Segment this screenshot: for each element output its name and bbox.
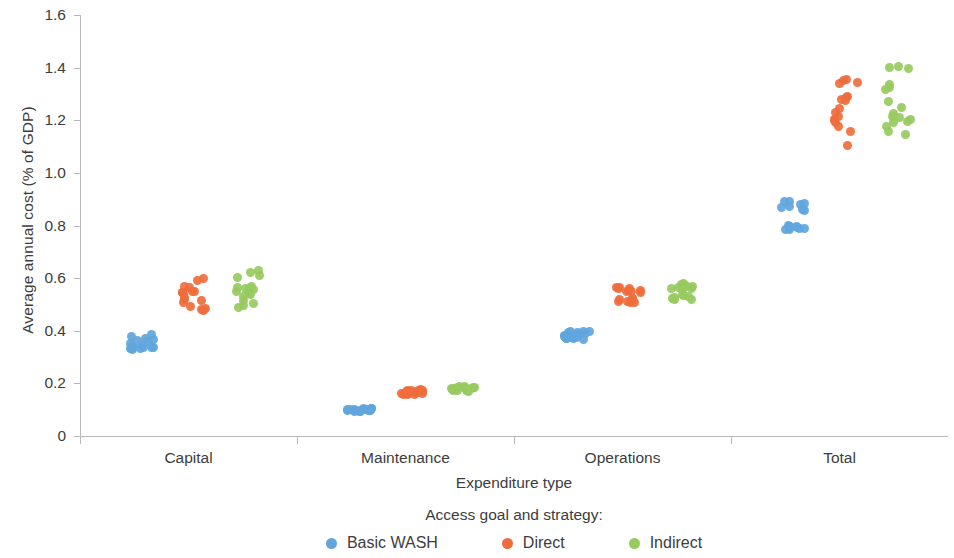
legend-item-label: Basic WASH bbox=[347, 534, 438, 552]
data-point bbox=[628, 294, 637, 303]
y-tick-label: 0.8 bbox=[8, 218, 66, 234]
x-tick-mark bbox=[514, 437, 515, 444]
data-point bbox=[246, 268, 255, 277]
y-tick-label: 0.6 bbox=[8, 270, 66, 286]
data-point bbox=[199, 306, 208, 315]
data-point bbox=[687, 295, 696, 304]
data-point bbox=[186, 302, 195, 311]
data-point bbox=[785, 225, 794, 234]
data-point bbox=[843, 141, 852, 150]
y-tick-label: 1.2 bbox=[8, 112, 66, 128]
data-point bbox=[894, 62, 903, 71]
data-point bbox=[234, 303, 243, 312]
y-tick-label: 0 bbox=[8, 428, 66, 444]
data-point bbox=[233, 273, 242, 282]
data-point bbox=[901, 130, 910, 139]
data-point bbox=[885, 63, 894, 72]
data-point bbox=[670, 293, 679, 302]
data-point bbox=[846, 127, 855, 136]
legend-item-direct[interactable]: Direct bbox=[502, 534, 565, 552]
y-tick-label: 1.0 bbox=[8, 165, 66, 181]
data-point bbox=[835, 79, 844, 88]
x-tick-mark bbox=[80, 437, 81, 444]
y-tick-label: 1.6 bbox=[8, 7, 66, 23]
data-point bbox=[834, 122, 843, 131]
legend-swatch-icon bbox=[326, 538, 337, 549]
scatter-chart-figure: Average annual cost (% of GDP) 00.20.40.… bbox=[0, 0, 954, 558]
data-point bbox=[800, 206, 809, 215]
data-point bbox=[190, 287, 199, 296]
data-point bbox=[682, 282, 691, 291]
data-point bbox=[785, 202, 794, 211]
x-axis-title: Expenditure type bbox=[80, 474, 948, 492]
x-tick-mark bbox=[297, 437, 298, 444]
data-point bbox=[853, 78, 862, 87]
data-point bbox=[255, 271, 264, 280]
data-point bbox=[414, 386, 423, 395]
plot-area bbox=[80, 15, 948, 436]
y-tick-label: 0.4 bbox=[8, 323, 66, 339]
data-point bbox=[881, 85, 890, 94]
data-point bbox=[136, 344, 145, 353]
x-tick-label-operations: Operations bbox=[513, 449, 733, 467]
data-point bbox=[249, 299, 258, 308]
data-point bbox=[636, 286, 645, 295]
x-tick-label-capital: Capital bbox=[79, 449, 299, 467]
legend-title: Access goal and strategy: bbox=[80, 506, 948, 524]
data-point bbox=[614, 297, 623, 306]
x-tick-label-maintenance: Maintenance bbox=[296, 449, 516, 467]
data-point bbox=[841, 96, 850, 105]
x-tick-mark bbox=[731, 437, 732, 444]
legend-swatch-icon bbox=[502, 538, 513, 549]
legend-item-indirect[interactable]: Indirect bbox=[629, 534, 702, 552]
data-point bbox=[470, 383, 479, 392]
x-tick-label-total: Total bbox=[730, 449, 950, 467]
legend-item-label: Indirect bbox=[650, 534, 702, 552]
y-tick-label: 1.4 bbox=[8, 60, 66, 76]
data-point bbox=[800, 224, 809, 233]
data-point bbox=[903, 117, 912, 126]
data-point bbox=[897, 103, 906, 112]
legend-item-label: Direct bbox=[523, 534, 565, 552]
data-point bbox=[579, 335, 588, 344]
y-tick-label: 0.2 bbox=[8, 375, 66, 391]
legend: Basic WASHDirectIndirect bbox=[80, 534, 948, 552]
data-point bbox=[128, 345, 137, 354]
data-point bbox=[356, 407, 365, 416]
legend-item-basic-wash[interactable]: Basic WASH bbox=[326, 534, 438, 552]
data-point bbox=[904, 64, 913, 73]
legend-swatch-icon bbox=[629, 538, 640, 549]
data-point bbox=[884, 127, 893, 136]
data-point bbox=[884, 97, 893, 106]
data-point bbox=[193, 276, 202, 285]
